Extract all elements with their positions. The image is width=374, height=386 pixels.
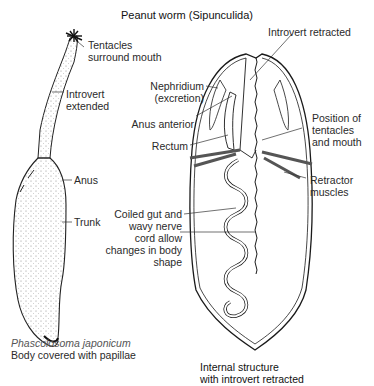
label-coiled-line4: changes in body: [90, 244, 182, 256]
label-coiled-line1: Coiled gut and: [90, 208, 182, 220]
label-position-line2: tentacles: [312, 124, 362, 136]
leader-lines: [52, 34, 306, 232]
worm-internal-illustration: [190, 54, 312, 350]
caption-left: Phascolosoma japonicum Body covered with…: [11, 337, 136, 361]
label-nephridium-line1: Nephridium: [130, 80, 204, 92]
label-coiled-gut: Coiled gut and wavy nerve cord allow cha…: [90, 208, 182, 268]
label-rectum: Rectum: [100, 140, 188, 152]
caption-right: Internal structure with introvert retrac…: [200, 361, 304, 385]
label-position-line3: and mouth: [312, 136, 362, 148]
caption-right-line1: Internal structure: [200, 361, 304, 373]
tentacles-icon: [66, 29, 82, 42]
label-introvert-line2: extended: [66, 100, 109, 112]
label-retractor-line1: Retractor: [310, 174, 353, 186]
caption-species: Phascolosoma japonicum: [11, 337, 136, 349]
label-position-line1: Position of: [312, 112, 362, 124]
worm-external-illustration: [13, 29, 82, 346]
label-coiled-line3: cord allow: [90, 232, 182, 244]
label-coiled-line2: wavy nerve: [90, 220, 182, 232]
caption-description: Body covered with papillae: [11, 349, 136, 361]
label-introvert-line1: Introvert: [66, 88, 109, 100]
caption-right-line2: with introvert retracted: [200, 373, 304, 385]
label-tentacles-line2: surround mouth: [88, 51, 162, 63]
label-nephridium-line2: (excretion): [130, 92, 204, 104]
label-introvert-extended: Introvert extended: [66, 88, 109, 112]
label-coiled-line5: shape: [90, 256, 182, 268]
label-retractor-muscles: Retractor muscles: [310, 174, 353, 198]
label-tentacles-line1: Tentacles: [88, 39, 162, 51]
label-nephridium: Nephridium (excretion): [130, 80, 204, 104]
diagram-title: Peanut worm (Sipunculida): [0, 9, 374, 21]
label-retractor-line2: muscles: [310, 186, 353, 198]
label-anus: Anus: [74, 174, 98, 186]
label-tentacles: Tentacles surround mouth: [88, 39, 162, 63]
label-position-tentacles-mouth: Position of tentacles and mouth: [312, 112, 362, 148]
label-introvert-retracted: Introvert retracted: [268, 26, 351, 38]
label-anus-anterior: Anus anterior: [100, 118, 194, 130]
